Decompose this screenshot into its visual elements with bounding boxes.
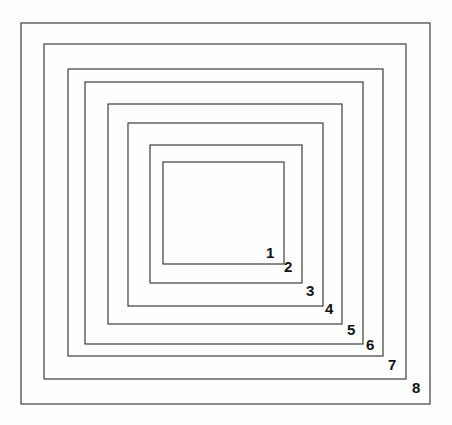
square-label-7: 7: [388, 357, 396, 372]
square-outline-2: [150, 145, 302, 283]
square-label-5: 5: [347, 322, 355, 337]
square-label-2: 2: [284, 259, 292, 274]
square-label-8: 8: [412, 380, 420, 395]
square-outline-6: [68, 69, 383, 356]
square-label-4: 4: [325, 301, 333, 316]
square-label-1: 1: [266, 245, 274, 260]
square-label-6: 6: [366, 337, 374, 352]
nested-squares-figure: 12345678: [0, 0, 452, 425]
square-outline-3: [128, 123, 323, 306]
square-outline-5: [85, 82, 363, 344]
nested-squares-canvas: [0, 0, 452, 425]
square-label-3: 3: [306, 283, 314, 298]
